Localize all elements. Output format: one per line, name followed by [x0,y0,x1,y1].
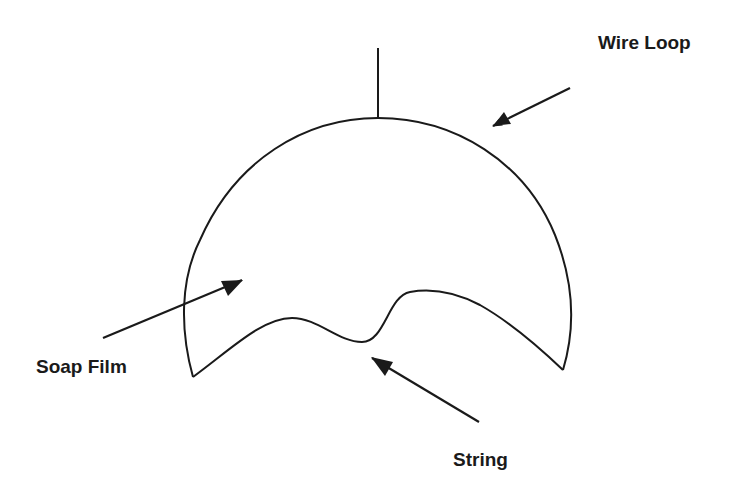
soap-film-diagram [0,0,740,492]
wire-loop-label: Wire Loop [598,33,691,52]
soap-film-arrowhead-icon [221,280,243,296]
string-label: String [453,450,508,469]
soap-film-label: Soap Film [36,357,127,376]
soap-film-arrow [103,280,242,338]
wire-loop-arc [184,118,571,377]
string-arrowhead-icon [371,357,393,376]
